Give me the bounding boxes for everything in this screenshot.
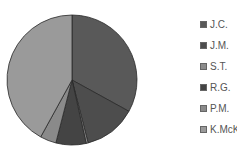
legend-label: P.M. [210, 103, 229, 114]
legend-item-jm: J.M. [200, 35, 237, 56]
pie-chart [0, 0, 150, 146]
legend-swatch-icon [200, 84, 207, 91]
legend-swatch-icon [200, 126, 207, 133]
legend-swatch-icon [200, 42, 207, 49]
legend-swatch-icon [200, 63, 207, 70]
legend-item-jc: J.C. [200, 14, 237, 35]
legend-label: K.McK [210, 124, 237, 135]
legend-swatch-icon [200, 105, 207, 112]
legend-label: S.T. [210, 61, 227, 72]
chart-legend: J.C. J.M. S.T. R.G. P.M. K.McK [200, 14, 237, 140]
legend-label: R.G. [210, 82, 231, 93]
legend-item-pm: P.M. [200, 98, 237, 119]
legend-item-st: S.T. [200, 56, 237, 77]
legend-label: J.M. [210, 40, 229, 51]
legend-label: J.C. [210, 19, 228, 30]
legend-item-kmck: K.McK [200, 119, 237, 140]
legend-swatch-icon [200, 21, 207, 28]
legend-item-rg: R.G. [200, 77, 237, 98]
